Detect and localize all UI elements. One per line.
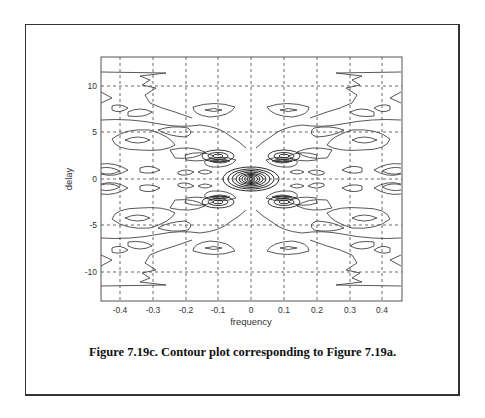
svg-text:0: 0 bbox=[92, 174, 97, 184]
svg-text:0.2: 0.2 bbox=[311, 305, 323, 315]
svg-text:-0.2: -0.2 bbox=[179, 305, 194, 315]
svg-text:-0.3: -0.3 bbox=[146, 305, 161, 315]
x-axis-label: frequency bbox=[230, 316, 272, 327]
svg-text:-5: -5 bbox=[89, 220, 97, 230]
svg-text:0.4: 0.4 bbox=[376, 305, 388, 315]
svg-text:-10: -10 bbox=[85, 267, 98, 277]
figure-caption: Figure 7.19c. Contour plot corresponding… bbox=[0, 345, 485, 360]
y-tick-labels: 10 5 0 -5 -10 bbox=[85, 81, 98, 277]
svg-text:-0.1: -0.1 bbox=[211, 305, 226, 315]
svg-text:5: 5 bbox=[92, 127, 97, 137]
svg-text:0.1: 0.1 bbox=[278, 305, 290, 315]
y-axis-label: delay bbox=[63, 167, 74, 190]
svg-text:0.3: 0.3 bbox=[344, 305, 356, 315]
svg-text:-0.4: -0.4 bbox=[113, 305, 128, 315]
x-tick-labels: -0.4 -0.3 -0.2 -0.1 0 0.1 0.2 0.3 0.4 bbox=[113, 305, 389, 315]
svg-text:0: 0 bbox=[249, 305, 254, 315]
svg-text:10: 10 bbox=[88, 81, 98, 91]
